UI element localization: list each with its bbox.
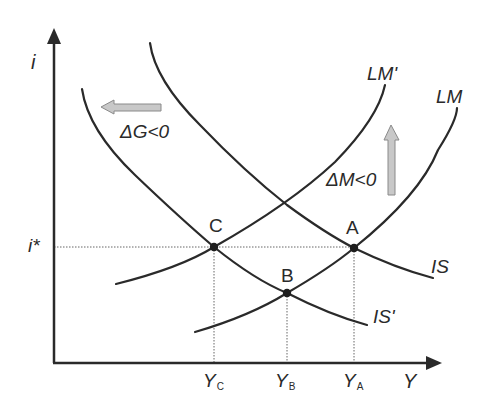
monetary-shift-arrow-icon [384,125,399,195]
guide-lines [54,247,354,363]
point-c-label: C [209,216,223,235]
x-axis-label: Y [403,371,416,391]
ya-label-main: Y [343,370,356,391]
is-label: IS [431,257,449,276]
ya-label-sub: A [357,381,364,392]
point-c-marker [210,243,218,251]
yb-label-sub: B [289,381,296,392]
yb-label-main: Y [275,370,288,391]
fiscal-shift-arrow-icon [101,100,161,114]
yc-label-sub: C [217,381,224,392]
yc-label-main: Y [203,370,216,391]
is-lm-diagram [0,0,484,399]
y-axis-label: i [31,52,35,72]
y-axis-arrowhead-icon [47,28,61,44]
lm-prime-label: LM' [367,64,397,83]
monetary-shift-label: ΔM<0 [326,170,376,189]
point-b-label: B [281,266,294,285]
x-axis-arrowhead-icon [426,356,442,370]
yb-label: YB [275,371,295,392]
curves [82,43,457,332]
point-a-marker [350,244,358,252]
lm-curve [195,108,457,332]
fiscal-shift-label: ΔG<0 [120,122,169,141]
is-prime-label: IS' [373,307,395,326]
lm-label: LM [436,87,462,106]
point-b-marker [283,289,291,297]
ya-label: YA [343,371,363,392]
point-a-label: A [346,218,359,237]
yc-label: YC [203,371,224,392]
i-star-label: i* [28,236,40,255]
